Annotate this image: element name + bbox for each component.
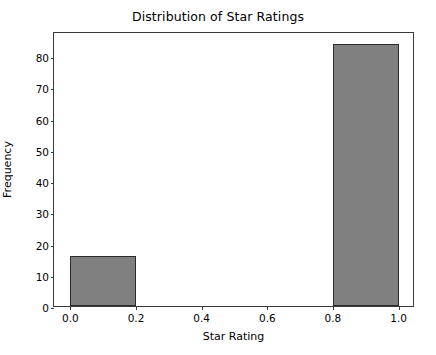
- chart-title: Distribution of Star Ratings: [0, 9, 436, 24]
- y-tick-label: 30: [36, 208, 49, 220]
- y-tick-mark: [51, 246, 55, 247]
- y-tick-mark: [51, 308, 55, 309]
- y-tick-mark: [51, 277, 55, 278]
- x-tick-label: 0.8: [325, 312, 342, 324]
- histogram-bar: [333, 44, 399, 307]
- x-tick-mark: [136, 306, 137, 310]
- y-tick-label: 20: [36, 240, 49, 252]
- x-tick-label: 0.4: [193, 312, 210, 324]
- y-tick-label: 60: [36, 115, 49, 127]
- histogram-figure: Distribution of Star Ratings Frequency 0…: [0, 0, 436, 355]
- y-tick-mark: [51, 121, 55, 122]
- x-tick-label: 0.0: [62, 312, 79, 324]
- y-axis-label: Frequency: [0, 32, 14, 307]
- y-tick-mark: [51, 183, 55, 184]
- y-tick-mark: [51, 152, 55, 153]
- x-tick-mark: [399, 306, 400, 310]
- x-tick-mark: [333, 306, 334, 310]
- x-tick-label: 1.0: [390, 312, 407, 324]
- y-tick-label: 10: [36, 271, 49, 283]
- x-tick-label: 0.6: [259, 312, 276, 324]
- x-tick-mark: [267, 306, 268, 310]
- histogram-bar: [70, 256, 136, 306]
- y-tick-mark: [51, 214, 55, 215]
- y-tick-label: 50: [36, 146, 49, 158]
- y-axis-label-text: Frequency: [1, 141, 14, 198]
- x-tick-mark: [202, 306, 203, 310]
- y-tick-mark: [51, 89, 55, 90]
- y-tick-label: 70: [36, 83, 49, 95]
- y-tick-label: 40: [36, 177, 49, 189]
- x-tick-label: 0.2: [128, 312, 145, 324]
- y-tick-mark: [51, 58, 55, 59]
- x-tick-mark: [70, 306, 71, 310]
- y-tick-label: 0: [42, 302, 49, 314]
- y-tick-label: 80: [36, 52, 49, 64]
- bars-layer: [54, 33, 413, 306]
- plot-area: 01020304050607080 0.00.20.40.60.81.0: [53, 32, 414, 307]
- x-axis-label: Star Rating: [53, 330, 414, 343]
